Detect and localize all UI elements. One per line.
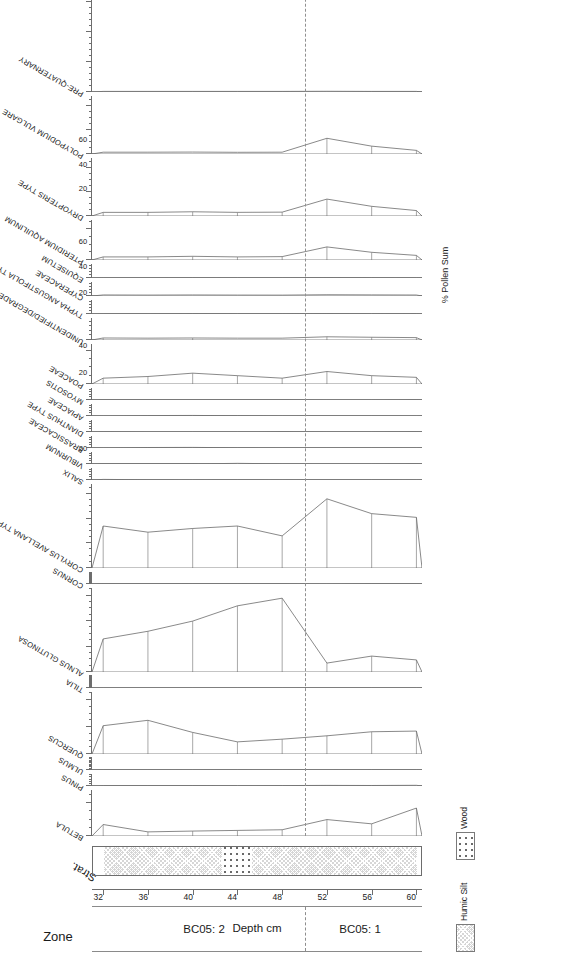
taxon-curve: [92, 0, 422, 92]
taxon-panel: 2040: [92, 96, 422, 154]
depth-tick-label: 56: [362, 892, 371, 902]
taxon-label: ALNUS GLUTINOSA: [16, 634, 85, 679]
depth-tick-label: 48: [273, 892, 282, 902]
taxon-curve: [92, 774, 422, 786]
depth-tick-label: 36: [138, 892, 147, 902]
zone-divider: [305, 907, 306, 951]
zone-label: BC05: 1: [340, 923, 382, 935]
pollen-diagram: TREES & SHRUBSHERBSMARSHSPORESMISC.TOTAL…: [0, 0, 564, 968]
taxon-panel: 2040: [92, 158, 422, 216]
taxon-panel: [92, 318, 422, 340]
taxon-panel: [92, 758, 422, 770]
taxon-panel: [92, 468, 422, 480]
legend-swatch-wood: [456, 832, 475, 860]
taxon-curve: [92, 790, 422, 836]
taxon-curve: [92, 468, 422, 480]
stratigraphy-legend: Humic SiltWood: [456, 732, 496, 952]
depth-tick-label: 32: [94, 892, 103, 902]
taxon-curve: [92, 96, 422, 154]
taxon-curve: [92, 300, 422, 314]
taxon-curve: [92, 758, 422, 770]
taxon-panel: [92, 774, 422, 786]
depth-tick: [416, 890, 417, 895]
taxon-curve: [92, 220, 422, 260]
taxon-panel: [92, 282, 422, 296]
taxon-curve: [92, 404, 422, 416]
taxon-label: BETULA: [54, 820, 85, 843]
taxon-panel: 20: [92, 344, 422, 384]
taxon-curve: [92, 436, 422, 448]
taxon-label: POLYPODIUM VULGARE: [1, 107, 85, 161]
taxon-curve: [92, 676, 422, 688]
taxon-panel: 50100150: [92, 0, 422, 92]
taxon-curve: [92, 318, 422, 340]
taxon-curve: [92, 264, 422, 278]
taxon-label: DRYOPTERIS TYPE: [16, 178, 85, 223]
zone-label: BC05: 2: [183, 923, 225, 935]
strat-segment-humic: [104, 847, 221, 875]
taxon-panel: [92, 388, 422, 400]
taxon-panel: [92, 420, 422, 432]
taxon-panel: 204060: [92, 588, 422, 672]
taxon-label: CORYLUS AVELLANA TYPE: [0, 516, 85, 575]
taxon-panel: [92, 572, 422, 584]
legend-label: Humic Silt: [459, 883, 469, 921]
taxon-panel: [92, 676, 422, 688]
depth-tick-label: 40: [183, 892, 192, 902]
depth-tick: [327, 890, 328, 895]
taxon-label: PRE-QUATERNARY: [17, 55, 85, 99]
taxon-curve: [92, 282, 422, 296]
depth-tick: [148, 890, 149, 895]
legend-label: Wood: [459, 807, 469, 829]
taxon-panel: [92, 264, 422, 278]
value-axis-title: % Pollen Sum: [440, 247, 450, 304]
taxon-panel: [92, 404, 422, 416]
strat-segment-wood: [222, 847, 252, 875]
stratigraphy-column: [92, 846, 422, 876]
taxon-curve: [92, 344, 422, 384]
taxon-panel: [92, 300, 422, 314]
depth-tick-label: 44: [228, 892, 237, 902]
depth-axis: 3236404448525660: [92, 889, 422, 890]
legend-swatch-humic: [456, 924, 475, 952]
strat-segment-humic: [252, 847, 418, 875]
value-tick-label: 100: [77, 0, 90, 32]
depth-tick: [237, 890, 238, 895]
depth-tick: [103, 890, 104, 895]
taxon-panel: [92, 452, 422, 464]
taxon-curve: [92, 388, 422, 400]
taxon-curve: [92, 420, 422, 432]
taxon-panel: 204060: [92, 484, 422, 568]
taxon-panel: 2040: [92, 692, 422, 754]
zone-boundary-line: [305, 0, 306, 836]
zone-column-title: Zone: [43, 929, 73, 944]
taxon-panel: [92, 436, 422, 448]
taxon-curve: [92, 484, 422, 568]
depth-tick-label: 52: [317, 892, 326, 902]
taxon-curve: [92, 588, 422, 672]
value-tick-label: 150: [77, 0, 90, 2]
taxon-curve: [92, 452, 422, 464]
taxon-curve: [92, 158, 422, 216]
depth-tick: [282, 890, 283, 895]
taxon-curve: [92, 692, 422, 754]
taxon-panel: 20: [92, 790, 422, 836]
depth-tick-label: 60: [407, 892, 416, 902]
taxon-panel: 20: [92, 220, 422, 260]
depth-axis-title: Depth cm: [232, 922, 281, 934]
taxon-curve: [92, 572, 422, 584]
